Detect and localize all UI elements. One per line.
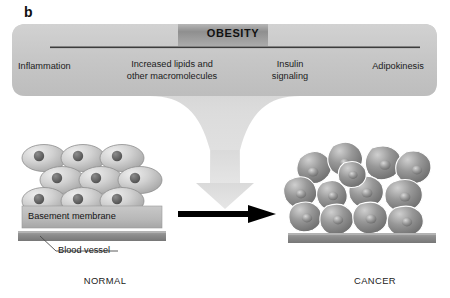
transition-arrow (178, 205, 276, 223)
figure-panel-b: b (0, 0, 450, 298)
cancer-cell (387, 206, 423, 236)
blood-vessel-bar-right (288, 233, 436, 243)
cancer-cell (353, 202, 388, 234)
obesity-title: OBESITY (188, 27, 278, 39)
factor-label-insulin-line1: Insulin (255, 59, 325, 71)
factor-label-insulin: Insulin signaling (255, 59, 325, 82)
cancer-cell (396, 151, 431, 184)
factor-label-lipids-line2: other macromolecules (112, 71, 232, 83)
factor-label-inflammation: Inflammation (18, 61, 108, 73)
cancer-cell-cluster (284, 142, 431, 236)
cancer-cell (320, 204, 354, 235)
basement-membrane-label: Basement membrane (28, 211, 158, 221)
blood-vessel-label: Blood vessel (58, 245, 158, 255)
factor-label-insulin-line2: signaling (255, 71, 325, 83)
cancer-cell (338, 161, 366, 187)
caption-cancer: CANCER (310, 275, 440, 286)
factor-label-lipids-line1: Increased lipids and (112, 59, 232, 71)
caption-normal: NORMAL (40, 275, 170, 286)
cancer-cell (289, 202, 322, 232)
cancer-cell (365, 146, 401, 180)
factor-label-adipokinesis: Adipokinesis (355, 61, 441, 73)
funnel-down-arrow (196, 150, 254, 209)
normal-epithelium-cells (22, 145, 162, 215)
factor-label-lipids: Increased lipids and other macromolecule… (112, 59, 232, 82)
